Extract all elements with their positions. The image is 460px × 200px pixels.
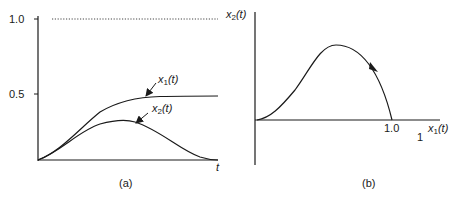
panel-b-caption: (b)	[362, 178, 375, 189]
panel-a-x-axis-label: t	[216, 162, 219, 173]
y-tick-label-0-5: 0.5	[9, 89, 24, 100]
curve-x1	[38, 96, 218, 160]
y-tick-label-1-0: 1.0	[9, 14, 24, 25]
panel-b-x-axis-label: x1(t)	[428, 123, 448, 137]
figure-canvas	[0, 0, 460, 200]
panel-a-caption: (a)	[119, 178, 132, 189]
panel-b-annotation: 1	[417, 132, 423, 143]
x2-label-arrow	[136, 113, 148, 123]
panel-b-plot	[255, 12, 440, 165]
panel-b-y-axis-label: x2(t)	[226, 9, 246, 23]
curve-x2	[38, 120, 218, 160]
x1-label-arrow	[146, 83, 156, 96]
panel-b-x-tick-1-0: 1.0	[384, 123, 399, 134]
trajectory-arrow-icon	[369, 62, 378, 72]
phase-trajectory	[257, 45, 392, 120]
curve-x2-label: x2(t)	[152, 103, 172, 117]
curve-x1-label: x1(t)	[158, 74, 178, 88]
panel-a-plot	[34, 16, 218, 161]
